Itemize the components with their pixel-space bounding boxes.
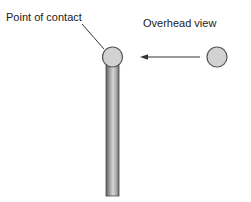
diagram-canvas [0,0,251,202]
leader-line [82,24,104,49]
arrow-left-icon [140,54,200,59]
rod [106,62,119,196]
contact-ball-icon [103,47,123,67]
overhead-ball-icon [207,47,227,67]
